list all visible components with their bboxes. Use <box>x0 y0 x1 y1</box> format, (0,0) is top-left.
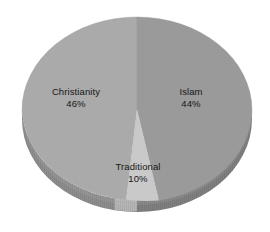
slice-islam <box>137 17 252 201</box>
pie-chart-figure: Christianity 46% Islam 44% Traditional 1… <box>0 0 270 232</box>
pie-chart-graphic <box>0 0 270 232</box>
slice-christianity <box>22 17 137 200</box>
